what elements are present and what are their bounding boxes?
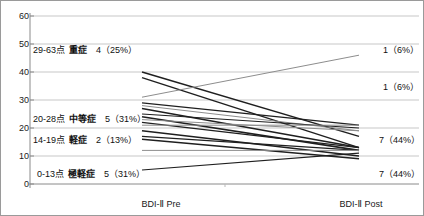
slope-line [142,55,359,97]
plot-area [1,1,424,216]
bdi-slope-chart: 60 50 40 30 20 10 0 29-63点重症4（25%） 20-28… [0,0,424,216]
slope-line [142,106,359,131]
gridlines [30,16,419,184]
slope-lines [142,55,359,170]
axis-lines [28,13,419,188]
slope-line [142,78,359,148]
